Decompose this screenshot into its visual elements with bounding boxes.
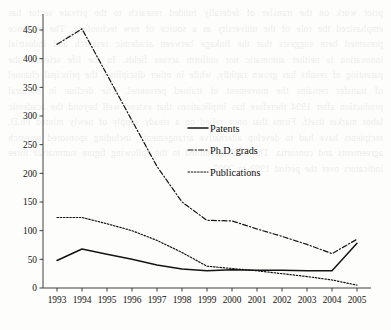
y-tick-label: 50 — [28, 255, 38, 265]
series-line — [57, 217, 357, 285]
y-tick-label: 0 — [32, 283, 37, 293]
x-axis: 1993199419951996199719981999200020012002… — [43, 288, 371, 305]
y-tick-label: 200 — [23, 169, 37, 179]
x-tick-label: 2004 — [323, 295, 342, 305]
y-tick-label: 100 — [23, 226, 37, 236]
y-axis: 050100150200250300350400450 — [23, 14, 43, 293]
x-tick-label: 1999 — [198, 295, 217, 305]
x-tick-label: 1995 — [98, 295, 117, 305]
x-tick-label: 2003 — [298, 295, 317, 305]
x-tick-label: 2000 — [223, 295, 242, 305]
line-chart: 050100150200250300350400450 199319941995… — [0, 0, 391, 330]
y-tick-label: 350 — [23, 83, 37, 93]
y-tick-label: 400 — [23, 54, 37, 64]
chart-canvas: 050100150200250300350400450 199319941995… — [0, 0, 391, 330]
legend-label: Publications — [210, 167, 260, 178]
x-tick-label: 1998 — [173, 295, 192, 305]
series-line — [57, 29, 357, 254]
y-tick-label: 250 — [23, 140, 37, 150]
legend-label: Patents — [210, 123, 239, 134]
y-tick-label: 150 — [23, 197, 37, 207]
x-tick-label: 1994 — [73, 295, 92, 305]
legend-label: Ph.D. grads — [210, 145, 258, 156]
x-tick-label: 2001 — [248, 295, 267, 305]
x-tick-label: 1997 — [148, 295, 167, 305]
y-tick-label: 300 — [23, 111, 37, 121]
chart-legend: PatentsPh.D. gradsPublications — [188, 123, 260, 178]
x-tick-label: 2002 — [273, 295, 292, 305]
x-tick-label: 2005 — [348, 295, 367, 305]
x-tick-label: 1996 — [123, 295, 142, 305]
y-tick-label: 450 — [23, 25, 37, 35]
series-lines — [57, 29, 357, 285]
x-tick-label: 1993 — [48, 295, 67, 305]
chart-page: prior work on the transfer of federally … — [0, 0, 391, 330]
